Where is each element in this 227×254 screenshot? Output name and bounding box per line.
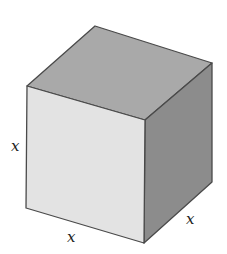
- label-bottom-edge: x: [67, 228, 76, 246]
- label-depth-edge: x: [186, 210, 195, 228]
- label-left-edge: x: [11, 137, 20, 155]
- cube-diagram: x x x: [0, 0, 227, 254]
